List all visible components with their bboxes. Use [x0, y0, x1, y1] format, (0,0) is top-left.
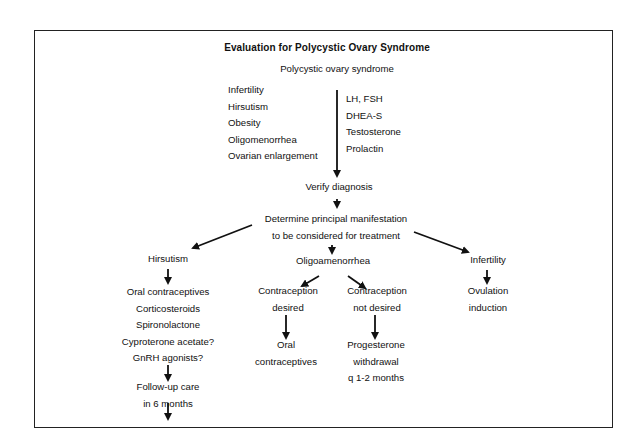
node-contraception-not-desired: Contraception not desired: [347, 283, 407, 316]
symptom-item: Obesity: [228, 115, 318, 132]
node-oral-contraceptives: Oral contraceptives: [255, 337, 317, 370]
arrow-to-infertility: [414, 232, 468, 252]
lab-item: LH, FSH: [346, 91, 401, 108]
node-verify-diagnosis: Verify diagnosis: [305, 179, 372, 196]
node-root: Polycystic ovary syndrome: [280, 61, 394, 78]
node-contraception-desired: Contraception desired: [258, 283, 318, 316]
arrow-to-hirsutism: [193, 225, 252, 248]
diagram-title: Evaluation for Polycystic Ovary Syndrome: [224, 40, 430, 57]
node-oligoamenorrhea: Oligoamenorrhea: [296, 253, 370, 270]
symptom-item: Infertility: [228, 82, 318, 99]
lab-item: DHEA-S: [346, 108, 401, 125]
node-hirsutism: Hirsutism: [148, 251, 188, 268]
symptoms-list: Infertility Hirsutism Obesity Oligomenor…: [228, 82, 318, 165]
lab-item: Prolactin: [346, 141, 401, 158]
labs-list: LH, FSH DHEA-S Testosterone Prolactin: [346, 91, 401, 157]
node-hirsutism-treatments: Oral contraceptives Corticosteroids Spir…: [122, 284, 214, 367]
symptom-item: Oligomenorrhea: [228, 132, 318, 149]
symptom-item: Hirsutism: [228, 99, 318, 116]
node-determine-manifestation: Determine principal manifestation to be …: [265, 211, 407, 244]
node-infertility: Infertility: [470, 252, 506, 269]
node-progesterone-withdrawal: Progesterone withdrawal q 1-2 months: [347, 337, 405, 387]
symptom-item: Ovarian enlargement: [228, 148, 318, 165]
lab-item: Testosterone: [346, 124, 401, 141]
node-ovulation-induction: Ovulation induction: [468, 283, 509, 316]
node-followup: Follow-up care in 6 months: [137, 379, 200, 412]
